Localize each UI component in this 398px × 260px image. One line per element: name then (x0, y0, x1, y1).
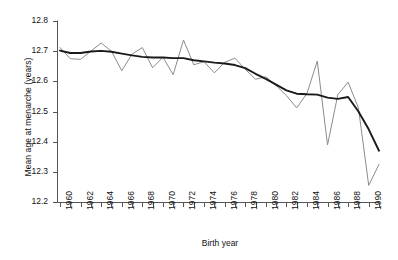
x-axis-title-text: Birth year (202, 238, 238, 248)
x-axis-title: Birth year (0, 238, 398, 248)
x-axis-tick-label: 1960 (64, 191, 74, 210)
x-axis-tick-label: 1972 (187, 191, 197, 210)
x-axis-tick-label: 1982 (290, 191, 300, 210)
y-axis-tick-label: 12.8 (14, 15, 48, 25)
x-axis-tick-label: 1968 (146, 191, 156, 210)
x-axis-tick-label: 1980 (270, 191, 280, 210)
y-axis-ticks (53, 22, 58, 203)
x-axis-tick-label: 1990 (373, 191, 383, 210)
axes (53, 21, 380, 208)
data-series-group (60, 40, 379, 185)
x-axis-tick-label: 1974 (208, 191, 218, 210)
x-axis-tick-label: 1966 (126, 191, 136, 210)
series-observed-line (60, 40, 379, 185)
x-axis-tick-label: 1978 (249, 191, 259, 210)
x-axis-tick-label: 1986 (332, 191, 342, 210)
x-axis-tick-label: 1970 (167, 191, 177, 210)
chart-plot-area (0, 0, 398, 260)
x-axis-tick-label: 1988 (352, 191, 362, 210)
figure: 12.212.312.412.512.612.712.8 19601962196… (0, 0, 398, 260)
x-axis-tick-label: 1976 (229, 191, 239, 210)
series-smoothed-line (60, 51, 379, 151)
y-axis-title: Mean age at menarche (years) (23, 27, 33, 207)
x-axis-tick-label: 1964 (105, 191, 115, 210)
x-axis-tick-label: 1984 (311, 191, 321, 210)
x-axis-tick-label: 1962 (85, 191, 95, 210)
